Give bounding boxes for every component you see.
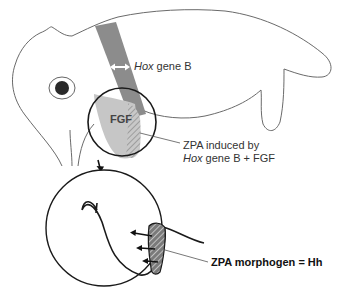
zpa-hox-italic: Hox <box>183 152 203 164</box>
morphogen-label: ZPA morphogen = Hh <box>211 256 323 268</box>
hox-rest: gene B <box>154 60 192 72</box>
diagram-canvas <box>0 0 343 291</box>
zpa-line2-rest: gene B + FGF <box>203 152 275 164</box>
fgf-label: FGF <box>110 113 132 125</box>
jaw-outline <box>70 130 72 166</box>
throat-outline <box>78 124 94 166</box>
zpa-line1: ZPA induced by <box>183 139 275 152</box>
zpa-leader-line <box>140 133 180 143</box>
eye-pupil <box>55 81 69 95</box>
hox-gene-label: Hox gene B <box>134 60 191 73</box>
zpa-induced-label: ZPA induced by Hox gene B + FGF <box>183 139 275 165</box>
hox-italic: Hox <box>134 60 154 72</box>
zpa-line2: Hox gene B + FGF <box>183 152 275 165</box>
hh-leader-line <box>165 250 208 262</box>
limb-bud-tip <box>96 203 97 213</box>
